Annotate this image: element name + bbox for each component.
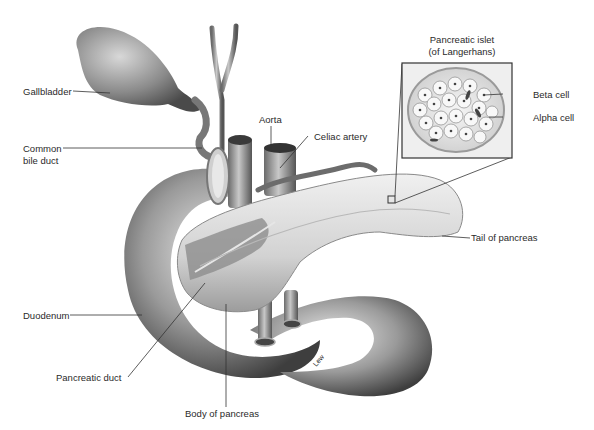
label-beta-cell: Beta cell — [533, 89, 569, 100]
anatomy-illustration — [0, 0, 594, 430]
label-duodenum: Duodenum — [23, 310, 69, 321]
pancreas-diagram: Gallbladder Common bile duct Aorta Celia… — [0, 0, 594, 430]
label-gallbladder: Gallbladder — [23, 86, 72, 97]
label-alpha-cell: Alpha cell — [533, 112, 574, 123]
label-body-of-pancreas: Body of pancreas — [185, 408, 259, 419]
label-tail-of-pancreas: Tail of pancreas — [471, 232, 538, 243]
label-islet-title-line1: Pancreatic islet — [414, 34, 510, 45]
label-aorta: Aorta — [259, 114, 282, 125]
label-islet-title-line2: (of Langerhans) — [414, 46, 510, 57]
islet-inset — [402, 63, 512, 158]
label-common-bile-duct-line1: Common — [23, 143, 62, 154]
hepatic-ducts — [212, 26, 236, 150]
label-celiac-artery: Celiac artery — [314, 131, 367, 142]
label-common-bile-duct-line2: bile duct — [23, 155, 58, 166]
label-pancreatic-duct: Pancreatic duct — [56, 372, 121, 383]
